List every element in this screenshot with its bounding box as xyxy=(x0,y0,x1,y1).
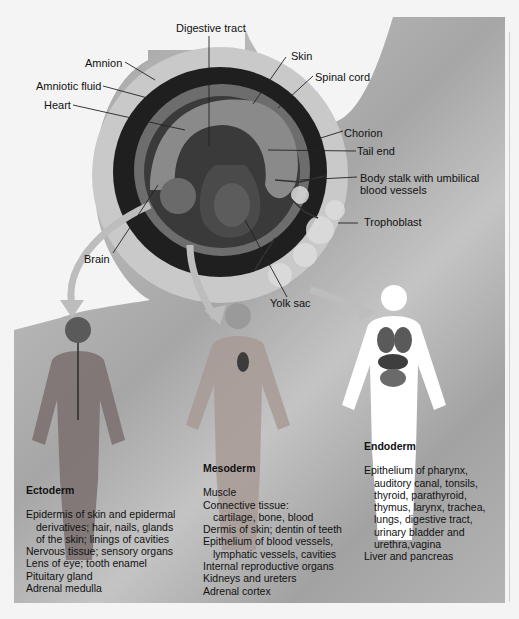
mesoderm-item: Connective tissue: xyxy=(203,499,342,511)
mesoderm-item: Kidneys and ureters xyxy=(203,572,342,584)
ectoderm-item: Nervous tissue; sensory organs xyxy=(26,545,175,557)
label-digestive-tract: Digestive tract xyxy=(176,22,246,34)
ectoderm-item: of the skin; linings of cavities xyxy=(26,533,175,545)
label-spinal-cord: Spinal cord xyxy=(315,71,370,83)
ectoderm-item: Epidermis of skin and epidermal xyxy=(26,508,175,520)
endoderm-column: Endoderm Epithelium of pharynx, auditory… xyxy=(364,440,485,563)
ectoderm-title: Ectoderm xyxy=(26,484,175,496)
ectoderm-item: Lens of eye; tooth enamel xyxy=(26,557,175,569)
mesoderm-item: Epithelium of blood vessels, xyxy=(203,535,342,547)
label-chorion: Chorion xyxy=(344,127,383,139)
mesoderm-item: Muscle xyxy=(203,486,342,498)
label-tail-end: Tail end xyxy=(357,145,395,157)
mesoderm-item: Internal reproductive organs xyxy=(203,560,342,572)
label-body-stalk: Body stalk with umbilical xyxy=(360,172,479,184)
ectoderm-item: derivatives; hair, nails, glands xyxy=(26,521,175,533)
endoderm-item: thyroid, parathyroid, xyxy=(364,489,485,501)
endoderm-title: Endoderm xyxy=(364,440,485,452)
brain-region xyxy=(160,178,196,214)
label-heart: Heart xyxy=(44,99,71,111)
mesoderm-item: Dermis of skin; dentin of teeth xyxy=(203,523,342,535)
endoderm-item: Liver and pancreas xyxy=(364,550,485,562)
endoderm-item: urethra,vagina xyxy=(364,538,485,550)
label-amnion: Amnion xyxy=(85,57,122,69)
label-body-stalk-cont: blood vessels xyxy=(360,184,427,196)
label-brain: Brain xyxy=(84,253,110,265)
endoderm-item: Epithelium of pharynx, xyxy=(364,464,485,476)
ectoderm-item: Pituitary gland xyxy=(26,570,175,582)
ectoderm-column: Ectoderm Epidermis of skin and epidermal… xyxy=(26,484,175,594)
endoderm-item: thymus, larynx, trachea, xyxy=(364,501,485,513)
mesoderm-item: Adrenal cortex xyxy=(203,585,342,597)
ectoderm-item: Adrenal medulla xyxy=(26,582,175,594)
label-trophoblast: Trophoblast xyxy=(364,216,422,228)
arrow-head-endoderm xyxy=(357,302,375,322)
mesoderm-title: Mesoderm xyxy=(203,462,342,474)
mesoderm-item: lymphatic vessels, cavities xyxy=(203,548,342,560)
mesoderm-item: cartilage, bone, blood xyxy=(203,511,342,523)
label-yolk-sac: Yolk sac xyxy=(270,297,311,309)
endoderm-item: urinary bladder and xyxy=(364,526,485,538)
label-skin: Skin xyxy=(291,50,312,62)
page-edge-rule xyxy=(509,32,510,602)
label-amniotic-fluid: Amniotic fluid xyxy=(36,80,101,92)
endoderm-item: lungs, digestive tract, xyxy=(364,513,485,525)
endoderm-item: auditory canal, tonsils, xyxy=(364,477,485,489)
mesoderm-column: Mesoderm Muscle Connective tissue: carti… xyxy=(203,462,342,597)
